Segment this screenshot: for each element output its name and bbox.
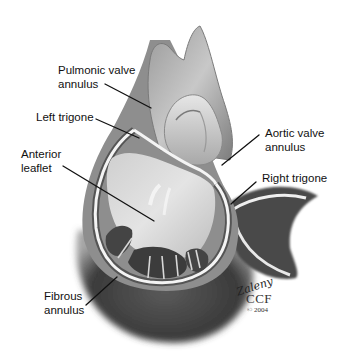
label-line: annulus (44, 303, 84, 317)
label-anterior-leaflet: Anterior leaflet (21, 147, 61, 175)
label-line: Pulmonic valve (58, 63, 135, 77)
label-line: Anterior (21, 147, 61, 161)
label-pulmonic-valve-annulus: Pulmonic valve annulus (58, 63, 135, 91)
label-line: annulus (265, 140, 324, 154)
label-line: Right trigone (262, 171, 327, 185)
label-left-trigone: Left trigone (36, 110, 94, 124)
credit-copyright: © 2004 (247, 306, 268, 314)
label-right-trigone: Right trigone (262, 171, 327, 185)
label-line: annulus (58, 77, 135, 91)
label-line: Aortic valve (265, 126, 324, 140)
label-line: Fibrous (44, 289, 84, 303)
label-line: leaflet (21, 161, 61, 175)
label-line: Left trigone (36, 110, 94, 124)
label-fibrous-annulus: Fibrous annulus (44, 289, 84, 317)
label-aortic-valve-annulus: Aortic valve annulus (265, 126, 324, 154)
credit-organization: CCF (246, 291, 272, 307)
